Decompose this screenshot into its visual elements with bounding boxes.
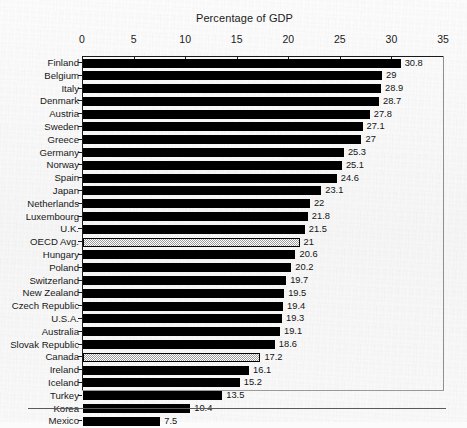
bar-row: Ireland16.1 (0, 364, 467, 377)
y-axis-tick-mark (78, 267, 82, 268)
y-axis-tick-mark (78, 318, 82, 319)
bar-value-label: 20.2 (295, 262, 313, 273)
bar-value-label: 19.3 (286, 313, 304, 324)
bar-row: Switzerland19.7 (0, 275, 467, 288)
bar-value-label: 7.5 (164, 416, 177, 427)
bar-value-label: 19.4 (287, 301, 305, 312)
category-label: OECD Avg. (0, 236, 79, 248)
bar-row: Greece27 (0, 134, 467, 147)
bar (83, 276, 286, 285)
bar-value-label: 21.5 (309, 224, 327, 235)
y-axis-tick-mark (78, 305, 82, 306)
bar-value-label: 19.5 (288, 288, 306, 299)
bar (83, 378, 240, 387)
bar-row: Canada17.2 (0, 351, 467, 364)
x-axis-tick-label: 20 (282, 33, 294, 45)
x-axis-tick-label: 15 (231, 33, 243, 45)
category-label: Luxembourg (0, 211, 79, 223)
y-axis-tick-mark (78, 152, 82, 153)
x-axis-tick-label: 30 (386, 33, 398, 45)
y-axis-tick-mark (78, 88, 82, 89)
y-axis-tick-mark (78, 344, 82, 345)
y-axis-tick-mark (78, 126, 82, 127)
x-axis-tick-label: 35 (437, 33, 449, 45)
bar-value-label: 21.8 (312, 211, 330, 222)
x-axis-tick-label: 5 (131, 33, 137, 45)
footer-divider (28, 408, 446, 409)
bar-value-label: 17.2 (264, 352, 282, 363)
bar-row: Italy28.9 (0, 83, 467, 96)
bar-value-label: 25.3 (348, 147, 366, 158)
bar-value-label: 13.5 (226, 390, 244, 401)
y-axis-tick-mark (78, 420, 82, 421)
category-label: Spain (0, 172, 79, 184)
bar (83, 84, 381, 93)
bar-row: Mexico7.5 (0, 415, 467, 428)
bar (83, 302, 283, 311)
y-axis-tick-mark (78, 164, 82, 165)
bar-value-label: 27 (365, 134, 375, 145)
category-label: Ireland (0, 364, 79, 376)
bar-rows: Finland30.8Belgium29Italy28.9Denmark28.7… (0, 57, 467, 428)
category-label: Austria (0, 108, 79, 120)
bar (83, 122, 363, 131)
bar-value-label: 30.8 (405, 58, 423, 69)
bar (83, 289, 284, 298)
bar-row: U.S.A.19.3 (0, 313, 467, 326)
bar-row: Germany25.3 (0, 147, 467, 160)
bar-row: Norway25.1 (0, 159, 467, 172)
x-axis-tick-label: 0 (79, 33, 85, 45)
chart-title: Percentage of GDP (0, 12, 467, 24)
x-axis-tick-label: 25 (334, 33, 346, 45)
bar-row: Hungary20.6 (0, 249, 467, 262)
bar-value-label: 23.1 (325, 185, 343, 196)
category-label: Denmark (0, 95, 79, 107)
y-axis-tick-mark (78, 203, 82, 204)
bar (83, 212, 308, 221)
category-label: Netherlands (0, 198, 79, 210)
y-axis-tick-mark (78, 75, 82, 76)
y-axis-tick-mark (78, 254, 82, 255)
bar (83, 135, 361, 144)
category-label: Switzerland (0, 275, 79, 287)
bar (83, 161, 342, 170)
category-label: Greece (0, 134, 79, 146)
category-label: Belgium (0, 70, 79, 82)
bar (83, 250, 295, 259)
bar (83, 340, 275, 349)
bar-row: OECD Avg.21 (0, 236, 467, 249)
bar-row: Japan23.1 (0, 185, 467, 198)
category-label: Finland (0, 57, 79, 69)
bar (83, 417, 160, 426)
bar-value-label: 28.7 (383, 96, 401, 107)
y-axis-tick-mark (78, 228, 82, 229)
bar (83, 327, 280, 336)
bar-value-label: 27.1 (367, 121, 385, 132)
y-axis-tick-mark (78, 292, 82, 293)
bar-value-label: 16.1 (253, 365, 271, 376)
y-axis-tick-mark (78, 100, 82, 101)
bar (83, 225, 305, 234)
bar (83, 353, 260, 362)
bar-row: Turkey13.5 (0, 390, 467, 403)
bar (83, 238, 300, 247)
bar (83, 71, 382, 80)
y-axis-tick-mark (78, 331, 82, 332)
category-label: Turkey (0, 390, 79, 402)
category-label: Italy (0, 83, 79, 95)
category-label: Norway (0, 159, 79, 171)
bar-value-label: 29 (386, 70, 396, 81)
y-axis-tick-mark (78, 113, 82, 114)
bar-row: Spain24.6 (0, 172, 467, 185)
bar-value-label: 27.8 (374, 109, 392, 120)
bar (83, 366, 249, 375)
bar (83, 263, 291, 272)
bar-value-label: 19.7 (290, 275, 308, 286)
bar-row: Australia19.1 (0, 326, 467, 339)
category-label: Australia (0, 326, 79, 338)
category-label: Canada (0, 351, 79, 363)
bar-row: Belgium29 (0, 70, 467, 83)
bar-value-label: 18.6 (279, 339, 297, 350)
category-label: Hungary (0, 249, 79, 261)
bar-value-label: 22 (314, 198, 324, 209)
